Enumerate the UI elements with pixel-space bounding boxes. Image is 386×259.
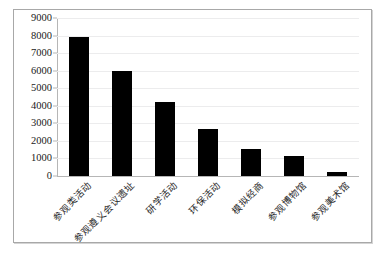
y-axis-tick-label: 9000 (31, 13, 52, 24)
y-axis-tick-label: 0 (47, 171, 52, 182)
x-axis-category-label: 参观博物馆 (266, 180, 309, 223)
y-axis-tick-label: 4000 (31, 101, 52, 112)
y-axis-tick-label: 1000 (31, 153, 52, 164)
y-axis-tick-label: 3000 (31, 118, 52, 129)
gridline-8000 (57, 36, 359, 37)
y-axis-tick-label: 5000 (31, 83, 52, 94)
bar (198, 129, 218, 176)
bar (284, 156, 304, 176)
bar (112, 71, 132, 176)
x-axis-category-label: 参观类活动 (51, 180, 94, 223)
bar (327, 172, 347, 176)
bar (241, 149, 261, 176)
y-axis-tick-label: 7000 (31, 48, 52, 59)
gridline-4000 (57, 106, 359, 107)
x-axis-category-label: 研学活动 (144, 180, 180, 216)
gridline-0 (57, 176, 359, 177)
x-axis-category-label: 环保活动 (187, 180, 223, 216)
y-axis-tick-label: 6000 (31, 65, 52, 76)
bar (155, 102, 175, 176)
y-axis-tick-label: 8000 (31, 30, 52, 41)
x-axis-category-label: 模拟经商 (230, 180, 266, 216)
y-axis-tick-label: 2000 (31, 136, 52, 147)
plot-area: 9000800070006000500040003000200010000 (57, 18, 359, 176)
gridline-3000 (57, 123, 359, 124)
bar (69, 37, 89, 176)
gridline-9000 (57, 18, 359, 19)
gridline-5000 (57, 88, 359, 89)
x-axis-category-label: 参观美术馆 (309, 180, 352, 223)
gridline-7000 (57, 53, 359, 54)
gridline-6000 (57, 71, 359, 72)
chart-container: 9000800070006000500040003000200010000 参观… (13, 9, 372, 243)
